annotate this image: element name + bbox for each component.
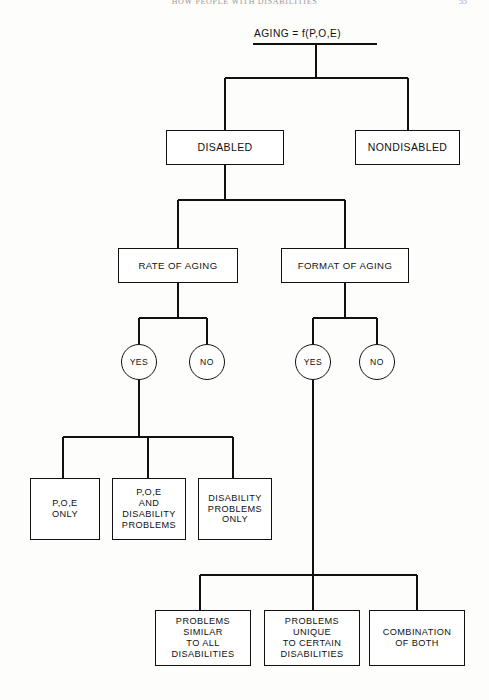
node-rate-yes[interactable]: YES: [121, 344, 157, 380]
node-disability-problems-only[interactable]: DISABILITY PROBLEMS ONLY: [198, 478, 272, 540]
root-label: AGING = f(P,O,E): [254, 28, 341, 39]
node-format-of-aging[interactable]: FORMAT OF AGING: [281, 248, 409, 283]
connector-lines: [0, 0, 489, 700]
node-nondisabled[interactable]: NONDISABLED: [355, 130, 460, 165]
node-disabled[interactable]: DISABLED: [166, 130, 284, 165]
node-poe-and-disability-problems[interactable]: P,O,E AND DISABILITY PROBLEMS: [112, 478, 186, 540]
node-problems-unique-to-certain[interactable]: PROBLEMS UNIQUE TO CERTAIN DISABILITIES: [264, 610, 360, 666]
node-rate-no[interactable]: NO: [189, 344, 225, 380]
diagram-page: HOW PEOPLE WITH DISABILITIES 55: [0, 0, 489, 700]
node-format-no[interactable]: NO: [359, 344, 395, 380]
node-combination-of-both[interactable]: COMBINATION OF BOTH: [369, 610, 465, 666]
node-problems-similar-to-all[interactable]: PROBLEMS SIMILAR TO ALL DISABILITIES: [155, 610, 251, 666]
node-poe-only[interactable]: P,O,E ONLY: [30, 478, 100, 540]
node-format-yes[interactable]: YES: [295, 344, 331, 380]
node-rate-of-aging[interactable]: RATE OF AGING: [118, 248, 238, 283]
